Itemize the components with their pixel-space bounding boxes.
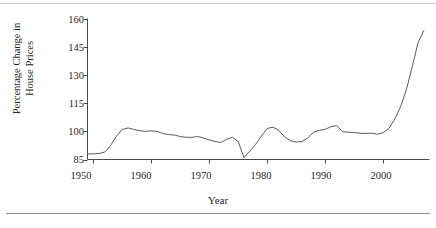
axis-lines [88,19,430,160]
x-tick-marks [94,160,384,164]
series-line-house-price-index [88,31,424,158]
y-tick-marks [84,20,88,161]
figure-container: Percentage Change in House Prices 160 14… [0,0,436,228]
bottom-horizontal-rule [6,213,430,214]
x-axis-label: Year [0,194,436,206]
